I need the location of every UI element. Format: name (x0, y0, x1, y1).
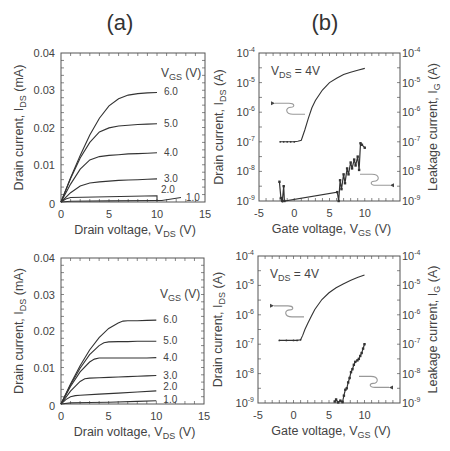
text-part: 10 (236, 309, 248, 321)
data-marker (286, 141, 288, 143)
text-part: 0.04 (34, 47, 55, 59)
arrow-right-icon (359, 376, 389, 387)
text-part: 10 (236, 279, 248, 291)
text-part: Drain current, I (212, 102, 226, 185)
data-marker (364, 147, 366, 149)
text-part: GS (358, 228, 371, 238)
data-marker (300, 339, 302, 341)
text-part: (A) (212, 69, 226, 89)
x-tick-label: 5 (106, 410, 112, 422)
y-left-tick-label: 10-5 (237, 76, 256, 89)
chart-a-bottom: 05101500.010.020.030.04Drain voltage, VD… (12, 252, 210, 441)
text-part: 10 (402, 47, 414, 59)
series-line-I_DS (279, 275, 364, 340)
text-part: (mA) (12, 65, 26, 96)
text-part: -7 (414, 337, 420, 344)
y-right-tick-label: 10-6 (402, 105, 421, 118)
data-marker (353, 364, 355, 366)
text-part: 1.0 (163, 394, 177, 405)
text-part: -6 (414, 308, 420, 315)
y-tick-label: 0.04 (34, 47, 55, 59)
text-part: GS (168, 293, 181, 303)
y-left-axis-label: Drain current, IDS (A) (212, 69, 228, 184)
text-part: -4 (249, 46, 255, 53)
text-part: -6 (249, 105, 255, 112)
text-part: (A) (211, 272, 225, 292)
text-part: V (271, 64, 279, 78)
text-part: -7 (249, 135, 255, 142)
arrowhead-left-icon (270, 304, 274, 308)
x-tick-label: 15 (199, 208, 211, 220)
arrow-right-icon (360, 174, 390, 185)
text-part: 10 (236, 338, 248, 350)
text-part: GS (169, 72, 182, 82)
text-part: Gate voltage, V (272, 222, 359, 236)
text-part: -7 (248, 337, 254, 344)
text-part: 2.0 (163, 381, 177, 392)
text-part: = 4V (291, 267, 319, 281)
text-part: 4.0 (163, 352, 177, 363)
x-axis-label: Drain voltage, VDS (V) (74, 425, 196, 441)
y-left-tick-label: 10-6 (236, 308, 255, 321)
data-marker (341, 401, 343, 403)
data-marker (357, 155, 359, 157)
text-part: 5 (326, 409, 332, 421)
y-right-tick-label: 10-9 (402, 396, 421, 409)
text-part: -8 (414, 164, 420, 171)
data-marker (337, 200, 339, 202)
x-tick-label: 10 (359, 207, 371, 219)
text-part: -7 (414, 135, 420, 142)
text-part: (V) (182, 66, 201, 80)
y-right-tick-label: 10-8 (402, 164, 421, 177)
text-part: Drain voltage, V (74, 223, 164, 237)
text-part: 10 (402, 165, 414, 177)
data-marker (278, 181, 280, 183)
text-part: 10 (237, 195, 249, 207)
x-axis-label: Gate voltage, VGS (V) (272, 222, 391, 238)
x-tick-label: 0 (58, 208, 64, 220)
y-left-tick-label: 10-8 (237, 164, 256, 177)
text-part: -5 (248, 278, 254, 285)
legend-title: VGS (V) (161, 66, 201, 82)
text-part: 0.03 (34, 289, 55, 301)
text-part: 10 (237, 136, 249, 148)
data-marker (290, 141, 292, 143)
text-part: 10 (236, 368, 248, 380)
x-tick-label: 10 (150, 410, 162, 422)
text-part: 0 (49, 400, 55, 412)
text-part: 10 (402, 195, 414, 207)
y-left-tick-label: 10-6 (237, 105, 256, 118)
y-right-tick-label: 10-4 (402, 46, 421, 59)
text-part: -5 (249, 76, 255, 83)
series-label-vgs-5.0: 5.0 (164, 118, 178, 129)
text-part: 5 (106, 208, 112, 220)
text-part: (V) (371, 424, 391, 438)
series-label-vgs-1.0: 1.0 (163, 394, 177, 405)
y-right-tick-label: 10-7 (402, 135, 421, 148)
chart-b-top: -5051010-910-910-810-810-710-710-610-610… (212, 46, 442, 238)
text-part: 10 (358, 409, 370, 421)
text-part: 3.0 (163, 370, 177, 381)
data-marker (348, 377, 350, 379)
chart-b-bottom: -5051010-910-910-810-810-710-710-610-610… (211, 249, 442, 440)
y-tick-label: 0.03 (34, 84, 55, 96)
text-part: 2.0 (161, 184, 175, 195)
y-tick-label: 0.02 (34, 325, 55, 337)
data-marker (278, 339, 280, 341)
text-part: 0 (291, 207, 297, 219)
text-part: DS (18, 95, 28, 108)
text-part: Drain current, I (211, 304, 225, 387)
text-part: Leakage current, I (426, 90, 440, 191)
data-marker (354, 361, 356, 363)
series-line-vgs-1.0 (61, 198, 181, 203)
y-right-tick-label: 10-9 (402, 194, 421, 207)
text-part: 10 (402, 250, 414, 262)
text-part: (V) (175, 425, 195, 439)
data-marker (343, 394, 345, 396)
series-label-vgs-6.0: 6.0 (164, 86, 178, 97)
text-part: 6.0 (163, 314, 177, 325)
series-line-vgs-6.0 (61, 93, 157, 203)
text-part: Drain current, I (12, 108, 26, 191)
data-marker (336, 191, 338, 193)
text-part: -9 (414, 396, 420, 403)
